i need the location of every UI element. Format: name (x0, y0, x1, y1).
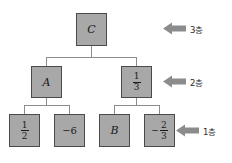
level-3-label: 3층 (190, 23, 203, 35)
left-arrow-icon (176, 124, 199, 137)
node-minus-two-thirds-denominator: 3 (160, 131, 168, 141)
node-c-label: C (87, 24, 95, 35)
node-one-third[interactable]: 1 3 (121, 66, 152, 98)
edge-level3-bus (46, 57, 137, 58)
edge-node-a-bus (24, 105, 69, 106)
node-minus-two-thirds-fraction: − 2 3 (151, 121, 168, 141)
node-one-third-fraction: 1 3 (133, 72, 141, 92)
level-annotation-1: 1층 (176, 124, 216, 137)
left-arrow-icon (163, 75, 186, 88)
node-one-half-denominator: 2 (21, 131, 29, 141)
node-minus-two-thirds[interactable]: − 2 3 (144, 114, 175, 147)
node-one-half-fraction: 1 2 (21, 121, 29, 141)
node-b[interactable]: B (99, 114, 130, 147)
node-one-half-numerator: 1 (21, 121, 29, 131)
node-b-label: B (110, 125, 118, 136)
level-1-label: 1층 (203, 125, 216, 137)
minus-sign-icon: − (151, 126, 159, 135)
node-minus-six-label: −6 (62, 126, 77, 136)
level-annotation-3: 3층 (163, 22, 203, 35)
left-arrow-icon (163, 22, 186, 35)
tree-diagram: C A 1 3 1 2 −6 B − (0, 0, 232, 163)
node-minus-six[interactable]: −6 (54, 114, 85, 147)
node-one-half[interactable]: 1 2 (9, 114, 40, 147)
node-one-third-numerator: 1 (133, 72, 141, 82)
level-2-label: 2층 (190, 76, 203, 88)
node-c[interactable]: C (76, 13, 107, 46)
edge-node-one-third-bus (114, 105, 159, 106)
node-one-third-denominator: 3 (133, 83, 141, 93)
node-a[interactable]: A (31, 66, 62, 98)
node-minus-two-thirds-numerator: 2 (160, 121, 168, 131)
node-a-label: A (43, 77, 51, 88)
level-annotation-2: 2층 (163, 75, 203, 88)
